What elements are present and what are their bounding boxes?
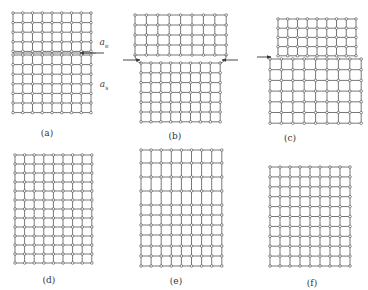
lattice-node xyxy=(80,83,83,86)
lattice-node xyxy=(14,163,17,166)
lattice-node xyxy=(80,102,83,105)
lattice-node xyxy=(200,149,203,152)
lattice-node xyxy=(345,27,348,30)
lattice-node xyxy=(160,265,163,268)
lattice-node xyxy=(280,79,283,82)
lattice-node xyxy=(51,102,54,105)
lattice-node xyxy=(190,149,193,152)
panel-label-a: (a) xyxy=(41,128,53,138)
lattice-node xyxy=(43,172,46,175)
lattice-node xyxy=(91,199,94,202)
lattice-node xyxy=(337,79,340,82)
lattice-node xyxy=(160,91,163,94)
lattice-node xyxy=(306,18,309,21)
lattice-node xyxy=(33,172,36,175)
lattice-node xyxy=(140,265,143,268)
lattice-node xyxy=(60,12,63,15)
lattice-node xyxy=(23,181,26,184)
lattice-node xyxy=(52,244,55,247)
lattice-node xyxy=(326,122,329,125)
lattice-node xyxy=(349,79,352,82)
lattice-node xyxy=(286,27,289,30)
lattice-node xyxy=(31,102,34,105)
lattice-node xyxy=(80,41,83,44)
lattice-node xyxy=(170,234,173,237)
lattice-node xyxy=(90,111,93,114)
lattice-node xyxy=(21,63,24,66)
lattice-node xyxy=(80,73,83,76)
lattice-node xyxy=(190,204,193,207)
lattice-node xyxy=(71,208,74,211)
lattice-node xyxy=(221,224,224,227)
lattice-node xyxy=(33,208,36,211)
lattice-node xyxy=(200,245,203,248)
lattice-node xyxy=(210,149,213,152)
lattice-node xyxy=(62,217,65,220)
lattice-node xyxy=(140,162,143,165)
lattice-node xyxy=(292,101,295,104)
lattice-node xyxy=(289,195,292,198)
lattice-node xyxy=(337,58,340,61)
lattice-node xyxy=(319,195,322,198)
lattice-node xyxy=(12,50,15,53)
lattice-node xyxy=(289,215,292,218)
lattice-node xyxy=(81,208,84,211)
lattice-node xyxy=(280,90,283,93)
lattice-node xyxy=(280,122,283,125)
lattice-node xyxy=(299,215,302,218)
lattice-node xyxy=(150,149,153,152)
lattice-node xyxy=(329,265,332,268)
lattice-node xyxy=(170,255,173,258)
lattice-node xyxy=(90,83,93,86)
lattice-node xyxy=(349,186,352,189)
lattice-node xyxy=(269,122,272,125)
lattice-node xyxy=(309,166,312,169)
lattice-node xyxy=(279,255,282,258)
lattice-node xyxy=(71,244,74,247)
lattice-node xyxy=(157,44,160,47)
lattice-node xyxy=(33,181,36,184)
lattice-node xyxy=(225,14,228,17)
lattice-node xyxy=(221,265,224,268)
lattice-node xyxy=(140,245,143,248)
lattice-node xyxy=(280,101,283,104)
lattice-node xyxy=(190,176,193,179)
lattice-node xyxy=(299,235,302,238)
lattice-node xyxy=(71,253,74,256)
lattice-node xyxy=(289,166,292,169)
lattice-node xyxy=(81,217,84,220)
lattice-node xyxy=(43,235,46,238)
lattice-node xyxy=(14,235,17,238)
lattice-node xyxy=(150,111,153,114)
lattice-node xyxy=(14,181,17,184)
lattice-node xyxy=(80,31,83,34)
lattice-node xyxy=(70,73,73,76)
lattice-node xyxy=(190,234,193,237)
lattice-node xyxy=(299,225,302,228)
lattice-node xyxy=(339,255,342,258)
lattice-node xyxy=(70,54,73,57)
lattice-node xyxy=(43,154,46,157)
lattice-node xyxy=(14,172,17,175)
lattice-node xyxy=(319,265,322,268)
lattice-node xyxy=(209,91,212,94)
lattice-node xyxy=(277,55,280,58)
lattice-node xyxy=(202,34,205,37)
lattice-node xyxy=(345,18,348,21)
lattice-node xyxy=(286,55,289,58)
lattice-node xyxy=(41,92,44,95)
lattice-node xyxy=(90,63,93,66)
lattice-node xyxy=(21,83,24,86)
lattice-node xyxy=(150,204,153,207)
lattice-node xyxy=(160,72,163,75)
lattice-node xyxy=(199,111,202,114)
lattice-node xyxy=(360,68,363,71)
lattice-node xyxy=(23,199,26,202)
lattice-node xyxy=(199,101,202,104)
lattice-node xyxy=(210,245,213,248)
lattice-node xyxy=(179,101,182,104)
lattice-node xyxy=(150,101,153,104)
lattice-node xyxy=(314,111,317,114)
lattice-grid-a-0 xyxy=(12,12,93,53)
lattice-node xyxy=(71,181,74,184)
